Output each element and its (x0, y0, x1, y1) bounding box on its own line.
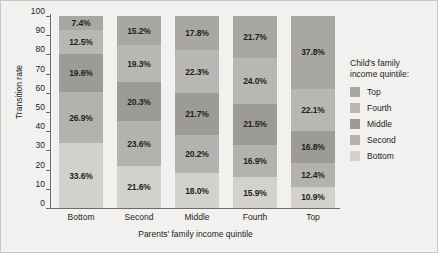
legend-item-fourth[interactable]: Fourth (350, 103, 436, 113)
y-axis-tick-label: 40 (19, 121, 45, 131)
bar-segment-label: 16.9% (243, 156, 267, 166)
bar-segment[interactable]: 19.3% (117, 45, 161, 82)
y-axis-tick-label: 70 (19, 64, 45, 74)
bar-segment-label: 16.8% (301, 142, 325, 152)
bar-segment[interactable]: 15.9% (233, 177, 277, 208)
x-axis-title: Parents' family income quintile (51, 229, 340, 239)
bar-segment-label: 19.3% (127, 59, 151, 69)
legend-swatch-icon (350, 87, 360, 97)
bar-segment-label: 22.3% (185, 67, 209, 77)
y-axis-tick-mark (46, 74, 50, 75)
legend-title: Child's family income quintile: (350, 58, 436, 80)
bar-segment-label: 17.8% (185, 28, 209, 38)
bar-segment-label: 21.7% (243, 32, 267, 42)
legend-swatch-icon (350, 103, 360, 113)
bar-segment[interactable]: 17.8% (175, 16, 219, 50)
bar-middle[interactable]: 17.8%22.3%21.7%20.2%18.0% (175, 16, 219, 208)
plot-area: 7.4%12.5%19.6%26.9%33.6%15.2%19.3%20.3%2… (51, 16, 340, 208)
y-axis-tick-mark (46, 150, 50, 151)
bar-segment[interactable]: 7.4% (59, 16, 103, 30)
bar-segment-label: 12.5% (69, 37, 93, 47)
legend-title-line-1: Child's family (350, 58, 436, 69)
y-axis-tick-mark (46, 189, 50, 190)
bar-segment-label: 23.6% (127, 139, 151, 149)
bar-segment[interactable]: 21.5% (233, 104, 277, 145)
legend-item-middle[interactable]: Middle (350, 119, 436, 129)
bar-segment-label: 37.8% (301, 47, 325, 57)
bar-segment[interactable]: 23.6% (117, 121, 161, 166)
y-axis-tick-labels: 0102030405060708090100 (19, 11, 45, 213)
y-axis-tick-mark (46, 54, 50, 55)
legend-item-bottom[interactable]: Bottom (350, 151, 436, 161)
y-axis-tick-label: 60 (19, 83, 45, 93)
y-axis-tick-mark (46, 131, 50, 132)
bar-segment[interactable]: 19.6% (59, 54, 103, 92)
bar-segment-label: 15.2% (127, 26, 151, 36)
bar-segment-label: 21.6% (127, 182, 151, 192)
bar-segment[interactable]: 16.8% (291, 131, 335, 163)
bar-segment-label: 21.7% (185, 109, 209, 119)
y-axis-tick-label: 20 (19, 160, 45, 170)
bar-segment[interactable]: 18.0% (175, 173, 219, 208)
y-axis-tick-label: 30 (19, 140, 45, 150)
bar-second[interactable]: 15.2%19.3%20.3%23.6%21.6% (117, 16, 161, 208)
legend-item-top[interactable]: Top (350, 87, 436, 97)
bar-top[interactable]: 37.8%22.1%16.8%12.4%10.9% (291, 16, 335, 208)
y-axis-tick-label: 10 (19, 179, 45, 189)
bar-segment[interactable]: 22.3% (175, 50, 219, 93)
y-axis-tick-label: 50 (19, 102, 45, 112)
bar-segment[interactable]: 21.7% (175, 93, 219, 135)
bar-segment[interactable]: 12.4% (291, 163, 335, 187)
y-axis-tick-mark (46, 170, 50, 171)
y-axis-tick-mark (46, 112, 50, 113)
legend-item-label: Bottom (367, 151, 394, 161)
bar-segment-label: 24.0% (243, 76, 267, 86)
legend-item-label: Middle (367, 119, 392, 129)
legend-item-label: Top (367, 87, 381, 97)
bar-segment-label: 12.4% (301, 170, 325, 180)
bar-segment[interactable]: 26.9% (59, 92, 103, 144)
legend-swatch-icon (350, 135, 360, 145)
bar-segment[interactable]: 37.8% (291, 16, 335, 89)
bar-segment[interactable]: 33.6% (59, 143, 103, 208)
bar-segment-label: 10.9% (301, 192, 325, 202)
bar-fourth[interactable]: 21.7%24.0%21.5%16.9%15.9% (233, 16, 277, 208)
bar-segment[interactable]: 16.9% (233, 145, 277, 177)
legend-item-label: Fourth (367, 103, 392, 113)
legend-swatch-icon (350, 151, 360, 161)
y-axis-tick-mark (46, 16, 50, 17)
bar-segment[interactable]: 12.5% (59, 30, 103, 54)
legend-item-second[interactable]: Second (350, 135, 436, 145)
bar-bottom[interactable]: 7.4%12.5%19.6%26.9%33.6% (59, 16, 103, 208)
legend-items: TopFourthMiddleSecondBottom (350, 87, 436, 161)
y-axis-tick-label: 100 (19, 6, 45, 16)
bar-segment[interactable]: 24.0% (233, 58, 277, 104)
x-axis-tick-labels: BottomSecondMiddleFourthTop (51, 212, 340, 226)
bar-segment-label: 33.6% (69, 171, 93, 181)
bar-segment[interactable]: 22.1% (291, 89, 335, 131)
bar-segment[interactable]: 10.9% (291, 187, 335, 208)
legend: Child's family income quintile: TopFourt… (350, 58, 436, 167)
bar-segment[interactable]: 15.2% (117, 16, 161, 45)
legend-swatch-icon (350, 119, 360, 129)
y-axis-tick-mark (46, 208, 50, 209)
bar-segment-label: 22.1% (301, 105, 325, 115)
bar-segment-label: 20.2% (185, 149, 209, 159)
legend-title-line-2: income quintile: (350, 69, 436, 80)
bar-segment-label: 20.3% (127, 97, 151, 107)
bar-segment-label: 15.9% (243, 188, 267, 198)
bar-segment-label: 26.9% (69, 113, 93, 123)
x-axis-tick-label-top: Top (278, 212, 348, 222)
bar-segment-label: 19.6% (69, 68, 93, 78)
y-axis-tick-label: 0 (19, 198, 45, 208)
bar-segment-label: 21.5% (243, 119, 267, 129)
y-axis-tick-label: 90 (19, 25, 45, 35)
bar-segment[interactable]: 21.6% (117, 166, 161, 207)
y-axis-tick-mark (46, 35, 50, 36)
bar-segment[interactable]: 20.3% (117, 82, 161, 121)
y-axis-tick-label: 80 (19, 44, 45, 54)
bar-segment[interactable]: 20.2% (175, 135, 219, 174)
bar-segment-label: 18.0% (185, 186, 209, 196)
bar-segment[interactable]: 21.7% (233, 16, 277, 58)
bar-segment-label: 7.4% (72, 18, 91, 28)
